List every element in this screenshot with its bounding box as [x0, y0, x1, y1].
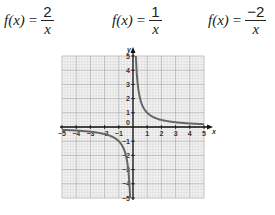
x-tick-label: −5	[58, 130, 66, 137]
y-tick-label: 3	[126, 81, 130, 88]
x-tick-label: 3	[174, 130, 178, 137]
y-tick-label: 1	[126, 109, 130, 116]
x-tick-label: 1	[145, 130, 149, 137]
y-tick-label: −5	[122, 195, 130, 202]
x-axis-label: x	[211, 128, 217, 135]
y-tick-label: 5	[126, 53, 130, 60]
x-tick-label: −1	[115, 130, 123, 137]
y-tick-label: −1	[122, 138, 130, 145]
y-axis-arrow-icon	[131, 47, 136, 53]
x-tick-label: 2	[159, 130, 163, 137]
y-tick-label: 4	[126, 67, 130, 74]
hyperbola-graph: xy−5−4−3−2−112345−5−4−3−2−1123450	[0, 0, 275, 215]
origin-label: 0	[126, 119, 130, 126]
x-tick-label: 5	[202, 130, 206, 137]
x-tick-label: 4	[188, 130, 192, 137]
y-tick-label: 2	[126, 95, 130, 102]
